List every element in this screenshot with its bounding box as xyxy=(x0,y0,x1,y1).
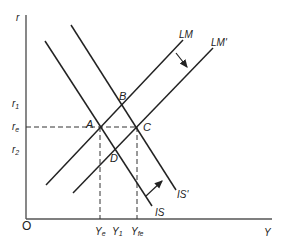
y-axis-label: r xyxy=(16,12,20,23)
ye-label: Ye xyxy=(95,226,106,237)
lm-prime-label: LM' xyxy=(211,37,228,48)
origin-label: O xyxy=(22,219,31,233)
is-lm-diagram: r Y O r1 re r2 Ye Y1 Yfe LM LM' IS IS' A… xyxy=(0,0,286,244)
re-label: re xyxy=(12,121,19,133)
point-a-label: A xyxy=(85,118,93,130)
x-axis-label: Y xyxy=(264,227,272,238)
lm-shift-arrow-icon xyxy=(176,53,187,67)
is-prime-curve xyxy=(71,25,176,190)
r1-label: r1 xyxy=(12,98,19,110)
is-curve xyxy=(45,41,152,206)
yfe-label: Yfe xyxy=(131,226,144,237)
point-d-label: D xyxy=(110,152,118,164)
y1-label: Y1 xyxy=(112,226,123,237)
is-prime-label: IS' xyxy=(177,189,189,200)
is-shift-arrow-icon xyxy=(146,181,162,196)
is-label: IS xyxy=(155,207,165,218)
point-b-label: B xyxy=(119,90,126,102)
point-c-label: C xyxy=(143,121,151,133)
r2-label: r2 xyxy=(12,144,19,156)
lm-label: LM xyxy=(179,29,194,40)
